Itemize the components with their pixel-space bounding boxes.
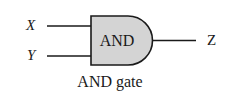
input-label-y: Y <box>27 48 35 63</box>
output-label-z: Z <box>207 33 216 48</box>
gate-type-label: AND <box>91 33 143 49</box>
and-gate-diagram: X Y Z AND AND gate <box>0 0 227 101</box>
diagram-caption: AND gate <box>60 74 160 90</box>
input-label-x: X <box>26 18 35 33</box>
